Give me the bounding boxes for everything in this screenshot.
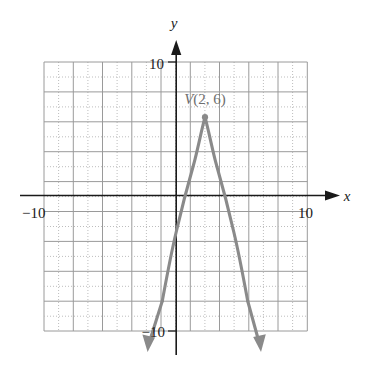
y-axis-tick-label-top: 10	[149, 56, 164, 72]
x-axis-tick-label-left: −10	[22, 205, 45, 221]
y-axis-arrowhead	[171, 40, 181, 55]
y-axis-name-label: y	[169, 15, 178, 31]
x-axis-name-label: x	[343, 188, 351, 204]
vertex-label: V(2, 6)	[184, 91, 226, 108]
axes-group	[20, 40, 340, 355]
x-axis-tick-label-right: 10	[298, 205, 313, 221]
figure-canvas: y x 10 −10 −10 10 V(2, 6)	[0, 0, 375, 374]
x-axis-arrowhead	[325, 190, 340, 200]
vertex-point-marker	[202, 114, 208, 120]
y-axis-tick-label-bottom: −10	[142, 324, 165, 340]
labels-group: y x 10 −10 −10 10 V(2, 6)	[22, 15, 351, 340]
parabola-right-arrowhead	[253, 334, 266, 352]
vertex-label-coords: (2, 6)	[193, 91, 226, 108]
parabola-graph: y x 10 −10 −10 10 V(2, 6)	[0, 0, 375, 374]
